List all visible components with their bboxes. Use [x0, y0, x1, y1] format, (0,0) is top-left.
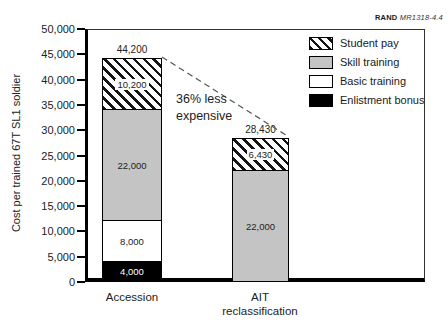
legend-item-student-pay: Student pay [309, 36, 424, 50]
y-tick-label: 30,000 [15, 124, 75, 136]
legend-label: Student pay [340, 37, 399, 49]
x-label-accession: Accession [72, 290, 192, 304]
x-label-ait-reclassification: AIT reclassification [200, 290, 320, 318]
segment-value-label: 8,000 [120, 236, 144, 247]
y-tick-mark [77, 281, 85, 283]
y-tick-mark [77, 205, 85, 207]
segment-value-label: 22,000 [117, 160, 146, 171]
y-tick-mark [77, 155, 85, 157]
bar-total-label: 44,200 [100, 44, 164, 55]
legend-label: Basic training [340, 75, 406, 87]
y-tick-mark [77, 256, 85, 258]
x-label-line: reclassification [200, 304, 320, 318]
figure-credit-brand: RAND [375, 13, 397, 22]
y-tick-label: 40,000 [15, 74, 75, 86]
annotation-line: expensive [176, 108, 232, 125]
y-tick-label: 15,000 [15, 200, 75, 212]
legend-label: Enlistment bonus [340, 94, 424, 106]
y-tick-mark [77, 180, 85, 182]
y-tick-mark [77, 129, 85, 131]
legend-label: Skill training [340, 56, 399, 68]
y-tick-label: 20,000 [15, 175, 75, 187]
y-tick-mark [77, 28, 85, 30]
legend-swatch-hatch-icon [309, 37, 333, 50]
bar-total-label: 28,430 [230, 124, 291, 135]
legend: Student pay Skill training Basic trainin… [309, 36, 424, 107]
x-label-line: Accession [72, 290, 192, 304]
segment-value-label: 22,000 [246, 221, 275, 232]
y-tick-mark [77, 79, 85, 81]
y-tick-label: 45,000 [15, 48, 75, 60]
segment-value-label: 4,000 [120, 266, 144, 277]
y-tick-mark [77, 104, 85, 106]
legend-swatch-gray-icon [309, 56, 333, 69]
segment-skill-training: 22,000 [103, 109, 161, 220]
segment-value-label: 10,200 [115, 79, 148, 90]
bar-ait-reclassification: 6,430 22,000 [232, 138, 289, 282]
legend-item-enlistment-bonus: Enlistment bonus [309, 93, 424, 107]
segment-basic-training: 8,000 [103, 220, 161, 261]
legend-swatch-black-icon [309, 94, 333, 107]
y-tick-label: 0 [15, 276, 75, 288]
y-tick-mark [77, 230, 85, 232]
segment-value-label: 6,430 [247, 149, 275, 160]
segment-student-pay: 6,430 [233, 139, 288, 170]
figure-credit-report-id: MR1318-4.4 [400, 13, 443, 22]
segment-enlistment-bonus: 4,000 [103, 261, 161, 281]
y-tick-label: 5,000 [15, 251, 75, 263]
segment-skill-training: 22,000 [233, 170, 288, 281]
legend-swatch-white-icon [309, 75, 333, 88]
y-tick-label: 50,000 [15, 23, 75, 35]
y-tick-label: 25,000 [15, 150, 75, 162]
legend-item-basic-training: Basic training [309, 74, 424, 88]
y-tick-label: 35,000 [15, 99, 75, 111]
annotation-36-percent: 36% less expensive [176, 91, 232, 125]
bar-accession: 10,200 22,000 8,000 4,000 [102, 58, 162, 282]
figure-credit: RAND MR1318-4.4 [375, 13, 443, 22]
segment-student-pay: 10,200 [103, 59, 161, 109]
legend-item-skill-training: Skill training [309, 55, 424, 69]
annotation-line: 36% less [176, 91, 232, 108]
x-label-line: AIT [200, 290, 320, 304]
y-tick-label: 10,000 [15, 225, 75, 237]
stacked-bar-chart-figure: RAND MR1318-4.4 Cost per trained 67T SL1… [0, 0, 447, 328]
y-tick-mark [77, 53, 85, 55]
